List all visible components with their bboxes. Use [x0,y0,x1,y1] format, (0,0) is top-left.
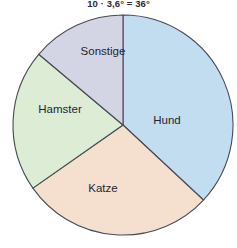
pie-slice-label-hamster: Hamster [38,103,82,115]
pie-slice-label-katze: Katze [88,182,117,194]
pie-chart-svg: HundKatzeHamsterSonstige [0,0,237,248]
pie-slice-label-hund: Hund [153,114,181,126]
pie-slice-label-sonstige: Sonstige [81,45,126,57]
pie-chart-figure: 10 · 3,6° = 36° HundKatzeHamsterSonstige [0,0,237,248]
